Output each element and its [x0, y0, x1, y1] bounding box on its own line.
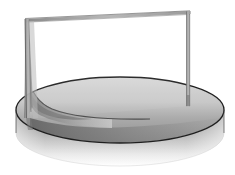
capillary-meniscus-illustration	[0, 0, 235, 175]
plate-top-right-corner	[188, 11, 191, 14]
figure-canvas: Capillary meniscus on a vertical plate i…	[0, 0, 235, 175]
plate-right-submerged-segment	[187, 95, 190, 106]
plate-glass-face	[27, 12, 190, 119]
